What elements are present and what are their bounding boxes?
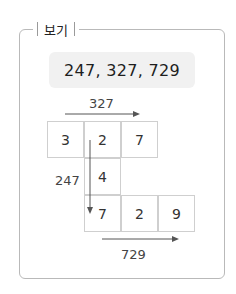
arrows <box>0 0 236 294</box>
